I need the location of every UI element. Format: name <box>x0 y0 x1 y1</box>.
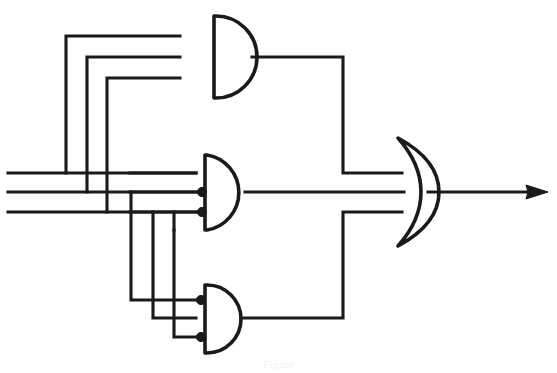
junction-dot-bot-in3 <box>196 332 205 341</box>
output-arrow <box>428 185 548 199</box>
wire-drop-to-and-bot-in3 <box>174 230 196 337</box>
figure-caption: Figure <box>0 357 557 371</box>
and-gate-middle[interactable] <box>205 155 239 230</box>
bottom-gate-input-wires <box>131 192 196 337</box>
and-gate-icon <box>205 155 239 230</box>
circuit-canvas <box>0 0 557 373</box>
wire-drop-to-and-bot-in1 <box>131 192 196 300</box>
top-gate-input-wires <box>66 36 180 212</box>
middle-gate-input-wires <box>130 173 196 212</box>
arrow-right-icon <box>526 185 548 199</box>
junction-dot-bot-in1 <box>196 295 205 304</box>
and-gate-bottom[interactable] <box>205 285 241 353</box>
junction-dot-mid-in3 <box>197 207 206 216</box>
logic-circuit-diagram: Figure <box>0 0 557 373</box>
wire-and-top-out-to-or-in1 <box>252 57 402 173</box>
junction-dot-mid-in2 <box>197 187 206 196</box>
wire-and-bot-out-to-or-in3 <box>241 212 402 318</box>
gate-output-wires <box>241 57 404 318</box>
and-gate-icon <box>205 285 241 353</box>
